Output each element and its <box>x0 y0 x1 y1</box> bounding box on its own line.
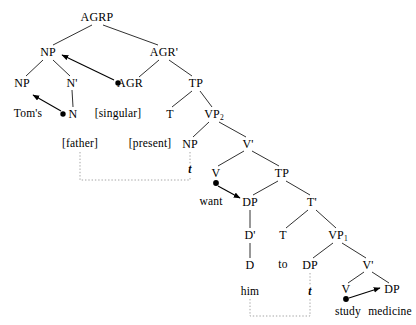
node-vp1-subscript: 1 <box>344 234 348 243</box>
node-np-low: NP <box>14 77 30 89</box>
branch-np-nplow <box>26 60 43 76</box>
syntax-tree-diagram: AGRP NP AGR' NP N' AGR TP Tom's N [singu… <box>0 0 416 325</box>
node-v-bar-2: V' <box>242 138 253 150</box>
movement-arrows <box>33 55 380 298</box>
node-tp-mid: TP <box>275 167 289 179</box>
node-dp-obj: DP <box>242 196 258 208</box>
bullet-v-study <box>343 296 349 302</box>
word-want: want <box>199 196 222 208</box>
node-np-top: NP <box>40 46 56 58</box>
node-agr: AGR <box>117 77 143 89</box>
branch-tp-vp2 <box>200 91 212 107</box>
branch-tbar-vp1 <box>316 210 336 228</box>
branch-agrbar-tp <box>169 60 192 76</box>
word-study: study <box>335 306 361 318</box>
branch-vp1-vbar <box>342 243 366 258</box>
branch-vp2-vbar <box>219 122 246 137</box>
branch-tbar-t <box>286 210 308 228</box>
branch-agrp-agrbar <box>103 25 158 45</box>
branch-tp-t <box>172 91 192 107</box>
node-agr-bar: AGR' <box>150 46 178 58</box>
trace-link-father <box>80 152 190 180</box>
branch-vbar2-v <box>218 151 244 166</box>
node-n: N <box>69 108 78 120</box>
branch-tpmid-dp <box>253 181 278 195</box>
trace-link-him <box>250 299 310 316</box>
node-vp2-label: VP <box>204 107 220 121</box>
node-dp-sub: DP <box>302 259 318 271</box>
node-vp1-label: VP <box>328 228 344 242</box>
arrow-study-to-dp <box>349 288 380 298</box>
word-medicine: medicine <box>368 306 412 318</box>
node-t-mid: T <box>279 229 287 241</box>
branch-agrp-np <box>53 25 92 45</box>
branch-np-nbar <box>53 60 70 76</box>
bullet-v-want <box>213 180 219 186</box>
branch-nbar-n <box>72 90 73 107</box>
node-n-bar: N' <box>66 77 77 89</box>
node-dp-medicine: DP <box>384 283 400 295</box>
feature-present: [present] <box>129 138 172 150</box>
node-tp-top: TP <box>189 77 203 89</box>
node-d: D <box>246 259 255 271</box>
feature-father: [father] <box>62 138 98 150</box>
word-to: to <box>278 259 287 271</box>
branch-tpmid-tbar <box>286 181 310 195</box>
branch-vp1-dp <box>313 243 333 258</box>
node-v-study: V <box>342 283 351 295</box>
tree-lines-layer <box>0 0 416 325</box>
word-toms: Tom's <box>14 108 42 120</box>
trace-t-subject: t <box>188 164 191 176</box>
node-t-bar: T' <box>307 196 317 208</box>
node-np-sub: NP <box>182 138 198 150</box>
feature-singular: [singular] <box>95 108 142 120</box>
bullet-n <box>60 111 65 116</box>
trace-t-object: t <box>308 286 311 298</box>
branch-vp2-np <box>193 122 209 137</box>
node-v-want: V <box>212 167 221 179</box>
node-vp1: VP1 <box>328 229 348 241</box>
node-v-bar-1: V' <box>362 259 373 271</box>
node-vp2: VP2 <box>204 108 224 120</box>
node-agrp: AGRP <box>81 11 114 23</box>
branch-vbar2-tp <box>252 151 279 166</box>
node-t-top: T <box>166 108 174 120</box>
branch-agrbar-agr <box>139 60 159 77</box>
node-vp2-subscript: 2 <box>220 113 224 122</box>
word-him: him <box>241 286 260 298</box>
node-d-bar: D' <box>244 229 255 241</box>
